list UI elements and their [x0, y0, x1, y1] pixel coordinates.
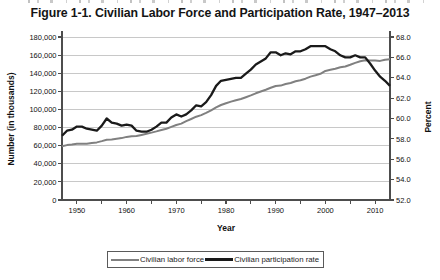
svg-text:1980: 1980: [218, 206, 235, 215]
gridlines: [62, 37, 390, 182]
svg-text:120,000: 120,000: [29, 87, 56, 96]
svg-text:60.0: 60.0: [396, 114, 411, 123]
svg-text:0: 0: [52, 196, 56, 205]
figure-page: Figure 1-1. Civilian Labor Force and Par…: [0, 0, 440, 280]
svg-text:54.0: 54.0: [396, 175, 411, 184]
svg-text:160,000: 160,000: [29, 51, 56, 60]
legend-label-participation-rate: Civilian participation rate: [233, 255, 320, 264]
y-left-tick-labels: 020,00040,00060,00080,000100,000120,0001…: [29, 33, 56, 205]
svg-text:68.0: 68.0: [396, 33, 411, 42]
svg-text:1990: 1990: [267, 206, 284, 215]
svg-text:62.0: 62.0: [396, 94, 411, 103]
y-axis-title-left: Number (in thousands): [6, 72, 16, 165]
legend-label-labor-force: Civilian labor force: [139, 255, 205, 264]
civilian-labor-force-line: [62, 59, 390, 146]
svg-text:56.0: 56.0: [396, 155, 411, 164]
svg-text:1960: 1960: [118, 206, 135, 215]
y-axis-title-right: Percent: [423, 101, 433, 132]
svg-text:2000: 2000: [317, 206, 334, 215]
x-tick-labels: 1950196019701980199020002010: [69, 206, 384, 215]
legend: Civilian labor force Civilian participat…: [107, 251, 324, 268]
svg-text:1970: 1970: [168, 206, 185, 215]
svg-text:140,000: 140,000: [29, 69, 56, 78]
svg-text:60,000: 60,000: [34, 141, 57, 150]
svg-text:2010: 2010: [367, 206, 384, 215]
svg-text:20,000: 20,000: [34, 178, 57, 187]
svg-text:80,000: 80,000: [34, 123, 57, 132]
svg-text:66.0: 66.0: [396, 53, 411, 62]
svg-text:64.0: 64.0: [396, 73, 411, 82]
legend-item-participation-rate: Civilian participation rate: [205, 255, 320, 264]
participation-rate-line-swatch: [205, 258, 233, 261]
y-right-tick-labels: 52.054.056.058.060.062.064.066.068.0: [396, 33, 411, 205]
svg-text:180,000: 180,000: [29, 33, 56, 42]
legend-item-labor-force: Civilian labor force: [111, 255, 205, 264]
svg-text:58.0: 58.0: [396, 135, 411, 144]
x-axis-title: Year: [217, 223, 235, 233]
svg-text:100,000: 100,000: [29, 105, 56, 114]
svg-text:1950: 1950: [69, 206, 86, 215]
svg-text:40,000: 40,000: [34, 159, 57, 168]
svg-text:52.0: 52.0: [396, 196, 411, 205]
labor-force-line-swatch: [111, 259, 139, 261]
chart-plot: 020,00040,00060,00080,000100,000120,0001…: [0, 0, 440, 280]
